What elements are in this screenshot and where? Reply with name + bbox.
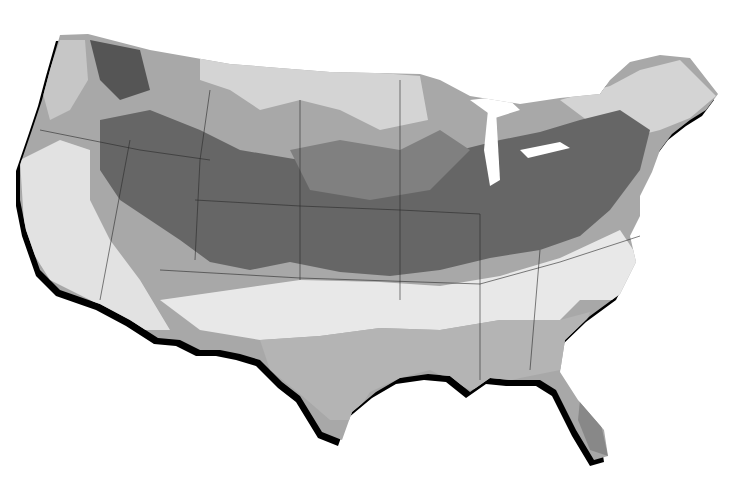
us-choropleth-map	[0, 0, 737, 486]
